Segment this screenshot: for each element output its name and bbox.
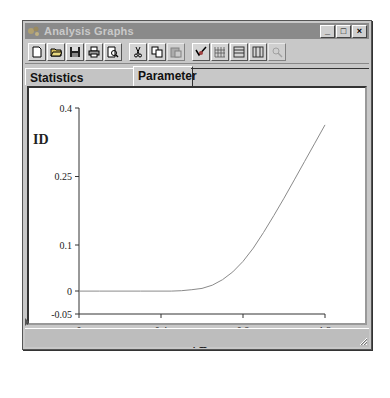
horizontal-lines-icon xyxy=(233,46,245,58)
title-bar[interactable]: Analysis Graphs _ □ × xyxy=(25,23,369,39)
copy-icon xyxy=(151,46,163,58)
print-preview-icon xyxy=(107,46,119,58)
open-folder-icon xyxy=(50,46,62,58)
tab-strip: Statistics [Analog] Parameter xyxy=(25,66,369,86)
grid-button[interactable] xyxy=(211,43,229,61)
maximize-button[interactable]: □ xyxy=(336,25,351,38)
paste-icon xyxy=(170,46,182,58)
y-tick-label: 0.25 xyxy=(55,171,73,182)
new-button[interactable] xyxy=(28,43,46,61)
paste-button[interactable] xyxy=(167,43,185,61)
data-series-line xyxy=(79,125,325,291)
status-bar xyxy=(25,328,369,347)
vertical-grid-button[interactable] xyxy=(249,43,267,61)
cut-icon xyxy=(132,46,144,58)
vertical-lines-icon xyxy=(252,46,264,58)
horizontal-grid-button[interactable] xyxy=(230,43,248,61)
new-document-icon xyxy=(31,46,43,58)
y-axis-title: ID xyxy=(33,132,49,147)
zoom-button[interactable] xyxy=(268,43,286,61)
graph-panel: 0.4 0.25 0.1 0 -0.05 0 0.4 0.8 1.2 ID VD xyxy=(27,86,367,325)
open-button[interactable] xyxy=(47,43,65,61)
cut-button[interactable] xyxy=(129,43,147,61)
y-tick-label: -0.05 xyxy=(51,309,72,320)
close-button[interactable]: × xyxy=(352,25,367,38)
print-button[interactable] xyxy=(85,43,103,61)
resize-grip-icon[interactable] xyxy=(358,336,368,346)
id-vd-chart: 0.4 0.25 0.1 0 -0.05 0 0.4 0.8 1.2 ID VD xyxy=(29,88,365,356)
grid-icon xyxy=(214,46,226,58)
tab-statistics-analog[interactable]: Statistics [Analog] xyxy=(25,68,135,85)
analysis-graphs-window: Analysis Graphs _ □ × xyxy=(22,20,372,350)
minimize-button[interactable]: _ xyxy=(320,25,335,38)
print-icon xyxy=(88,46,100,58)
print-preview-button[interactable] xyxy=(104,43,122,61)
tab-parameter[interactable]: Parameter xyxy=(133,66,193,86)
zoom-icon xyxy=(271,46,283,58)
properties-icon xyxy=(195,46,207,58)
toolbar xyxy=(25,41,369,64)
window-title: Analysis Graphs xyxy=(44,25,134,37)
y-tick-label: 0.4 xyxy=(60,103,73,114)
save-icon xyxy=(69,46,81,58)
y-tick-label: 0.1 xyxy=(60,240,73,251)
properties-button[interactable] xyxy=(192,43,210,61)
app-icon xyxy=(27,25,41,37)
save-button[interactable] xyxy=(66,43,84,61)
copy-button[interactable] xyxy=(148,43,166,61)
y-tick-label: 0 xyxy=(67,286,72,297)
